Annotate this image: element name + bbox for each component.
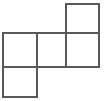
- middle-right-square: [66, 33, 99, 67]
- bottom-left-square: [3, 67, 37, 97]
- middle-left-square: [3, 33, 37, 67]
- top-right-square: [66, 4, 99, 33]
- middle-center-square: [37, 33, 66, 67]
- polyomino-net-svg: [0, 0, 106, 101]
- polyomino-net-figure: [0, 0, 106, 101]
